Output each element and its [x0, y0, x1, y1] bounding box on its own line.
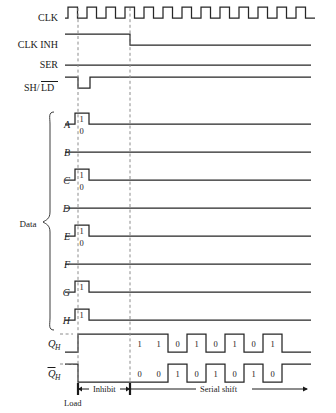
- bit-label-qh_bar-1: 0: [156, 369, 160, 379]
- bottom-annotations: Inhibit Serial shift Load: [64, 383, 308, 408]
- data-line-labels: A B C D E F G H: [62, 119, 71, 326]
- output-label-qh-sub: H: [54, 343, 61, 352]
- bit-label-qh-3: 1: [194, 339, 198, 349]
- data-group: Data: [20, 112, 55, 330]
- bit-label-qh_bar-4: 1: [213, 369, 217, 379]
- bit-value-labels: 101010111101010100101010: [79, 114, 274, 379]
- waveform-data-h: [65, 309, 311, 320]
- bit-label-qh-5: 1: [232, 339, 236, 349]
- waveform-data-e: [65, 225, 311, 236]
- signal-label-ld: LD: [41, 82, 54, 93]
- data-brace: [43, 112, 54, 330]
- bit-label-qh-6: 0: [251, 339, 255, 349]
- signal-label-clk: CLK: [38, 12, 59, 23]
- signal-label-ser: SER: [40, 59, 59, 70]
- bit-label-qh-4: 0: [213, 339, 217, 349]
- bit-label-qh_bar-5: 0: [232, 369, 236, 379]
- waveform-layer: [65, 7, 315, 382]
- bit-label-e-high: 1: [79, 226, 83, 236]
- bit-label-c-low: 0: [79, 182, 83, 192]
- bit-label-qh_bar-3: 0: [194, 369, 198, 379]
- bit-label-g-high: 1: [79, 282, 83, 292]
- output-labels: Q H Q H: [48, 338, 62, 382]
- signal-labels: CLK CLK INH SER SH/ LD: [18, 12, 59, 93]
- bit-label-qh_bar-2: 1: [175, 369, 179, 379]
- bit-label-c-high: 1: [79, 170, 83, 180]
- timing-diagram-figure: CLK CLK INH SER SH/ LD Data A B C D E F …: [0, 0, 336, 413]
- waveform-clk-inh: [65, 34, 311, 45]
- bit-label-qh_bar-0: 0: [137, 369, 141, 379]
- bit-label-e-low: 0: [79, 238, 83, 248]
- waveform-data-a: [65, 113, 311, 124]
- timing-diagram-svg: CLK CLK INH SER SH/ LD Data A B C D E F …: [0, 0, 336, 413]
- signal-label-clk-inh: CLK INH: [18, 39, 58, 50]
- annotation-serial-shift: Serial shift: [200, 384, 238, 394]
- bit-label-a-low: 0: [79, 126, 83, 136]
- bit-label-qh-2: 0: [175, 339, 179, 349]
- bit-label-qh_bar-7: 0: [270, 369, 274, 379]
- data-group-label: Data: [20, 219, 37, 229]
- output-label-qh-bar-sub: H: [54, 373, 61, 382]
- bit-label-qh-1: 1: [156, 339, 160, 349]
- bit-label-qh-0: 1: [137, 339, 141, 349]
- annotation-inhibit: Inhibit: [93, 384, 116, 394]
- waveform-clk: [65, 7, 315, 18]
- bit-label-h-high: 1: [79, 310, 83, 320]
- waveform-data-g: [65, 281, 311, 292]
- waveform-sh-ld: [65, 77, 311, 88]
- bit-label-qh-7: 1: [270, 339, 274, 349]
- serial-shift-arrowhead: [303, 386, 308, 391]
- signal-label-sh: SH/: [24, 82, 40, 93]
- bit-label-qh_bar-6: 1: [251, 369, 255, 379]
- waveform-data-c: [65, 169, 311, 180]
- bit-label-a-high: 1: [79, 114, 83, 124]
- annotation-load: Load: [64, 398, 82, 408]
